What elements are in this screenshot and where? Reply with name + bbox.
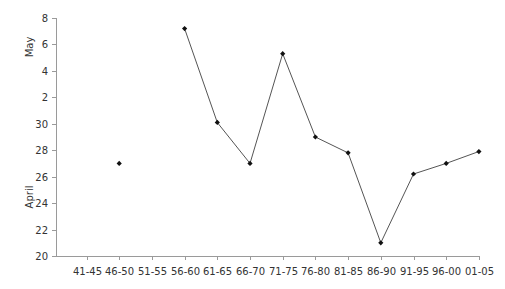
x-tick-label: 51-55 xyxy=(138,266,167,277)
series-line xyxy=(185,29,479,243)
data-point-marker xyxy=(476,149,481,154)
x-tick-label: 41-45 xyxy=(73,266,102,277)
y-tick-label: 8 xyxy=(42,13,48,24)
y-tick-label: 28 xyxy=(35,145,48,156)
y-tick-label: 2 xyxy=(42,92,48,103)
y-tick-label: 6 xyxy=(42,39,48,50)
data-point-marker xyxy=(411,171,416,176)
y-axis-title-april: April xyxy=(24,186,35,209)
x-axis: 41-4546-5051-5556-6061-6566-7071-7576-80… xyxy=(56,256,494,277)
y-tick-label: 4 xyxy=(42,66,48,77)
y-axis: 2022242628302468 xyxy=(35,13,56,262)
data-point-marker xyxy=(346,150,351,155)
data-point-marker xyxy=(313,134,318,139)
data-point-marker xyxy=(117,161,122,166)
x-tick-label: 76-80 xyxy=(301,266,330,277)
y-tick-label: 30 xyxy=(35,119,48,130)
y-tick-group: 2022242628302468 xyxy=(35,13,56,262)
x-tick-group: 41-4546-5051-5556-6061-6566-7071-7576-80… xyxy=(73,256,494,277)
y-tick-label: 20 xyxy=(35,251,48,262)
x-tick-label: 66-70 xyxy=(236,266,265,277)
data-series xyxy=(117,26,482,245)
x-tick-label: 86-90 xyxy=(367,266,396,277)
data-point-marker xyxy=(280,51,285,56)
x-tick-label: 61-65 xyxy=(203,266,232,277)
x-tick-label: 01-05 xyxy=(465,266,494,277)
y-tick-label: 22 xyxy=(35,225,48,236)
y-tick-label: 24 xyxy=(35,198,48,209)
data-point-marker xyxy=(378,240,383,245)
y-tick-label: 26 xyxy=(35,172,48,183)
x-tick-label: 46-50 xyxy=(105,266,134,277)
y-axis-title-may: May xyxy=(24,37,35,58)
x-tick-label: 91-95 xyxy=(400,266,429,277)
x-tick-label: 56-60 xyxy=(171,266,200,277)
data-point-marker xyxy=(444,161,449,166)
data-point-marker xyxy=(182,26,187,31)
x-tick-label: 96-00 xyxy=(432,266,461,277)
line-chart: 2022242628302468 41-4546-5051-5556-6061-… xyxy=(0,0,505,289)
x-tick-label: 81-85 xyxy=(334,266,363,277)
x-tick-label: 71-75 xyxy=(269,266,298,277)
